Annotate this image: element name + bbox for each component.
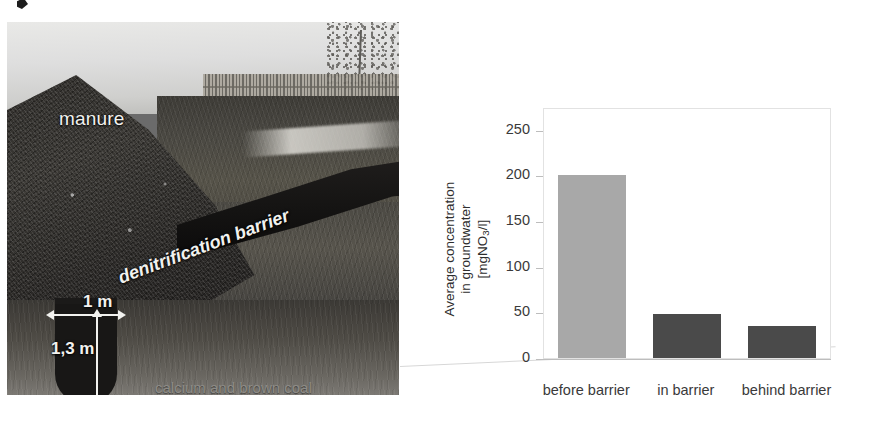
y-axis-unit-post: /l] (475, 220, 490, 231)
bars-container (544, 109, 830, 358)
photo-label-depth: 1,3 m (51, 339, 94, 359)
figure-root: manure denitrification barrier 1 m 1,3 m… (0, 0, 874, 429)
plot-area (543, 108, 831, 359)
y-axis-tick-label: 150 (490, 212, 530, 228)
y-axis-title: Average concentration in groundwater [mg… (442, 134, 492, 364)
y-axis-tick-label: 100 (490, 258, 530, 274)
x-axis-baseline (543, 359, 831, 360)
y-axis-tick-label: 50 (490, 303, 530, 319)
bar-slot (544, 109, 639, 358)
bar-before-barrier (558, 175, 626, 358)
y-axis-title-line-1: Average concentration (442, 134, 458, 364)
photo-label-manure: manure (59, 108, 125, 130)
x-axis-tick-label: in barrier (657, 382, 714, 398)
y-axis-unit-pre: [mgNO (475, 236, 490, 279)
y-axis-title-line-2: in groundwater (458, 134, 474, 364)
y-axis-tick-label: 0 (490, 349, 530, 365)
photo-label-width: 1 m (83, 292, 112, 312)
denitrification-barrier-photo: manure denitrification barrier 1 m 1,3 m… (7, 22, 399, 395)
photo-label-fill-material: calcium and brown coal (155, 379, 312, 395)
groundwater-concentration-bar-chart: Average concentration in groundwater [mg… (434, 96, 870, 416)
x-axis-tick-label: before barrier (543, 382, 630, 398)
x-axis-tick-label: behind barrier (742, 382, 831, 398)
bar-slot (639, 109, 734, 358)
y-axis-unit-subscript: 3 (480, 230, 491, 235)
y-axis-tick-label: 200 (490, 166, 530, 182)
y-axis-tick-label: 250 (490, 121, 530, 137)
bar-in-barrier (653, 314, 721, 358)
x-axis-tick-labels: before barrierin barrierbehind barrier (529, 382, 845, 398)
depth-dimension-arrow (96, 316, 98, 395)
width-dimension-arrow (53, 314, 119, 316)
bar-behind-barrier (748, 326, 816, 358)
bar-slot (735, 109, 830, 358)
corner-mark-icon (17, 0, 28, 9)
